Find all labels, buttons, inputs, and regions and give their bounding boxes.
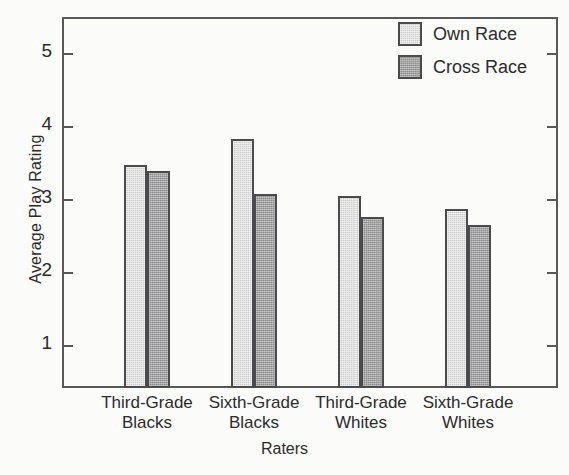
x-axis-category-line-1: Third-Grade [315, 393, 407, 412]
x-axis-category-label: Sixth-GradeWhites [400, 393, 536, 433]
y-axis-tick-mark [62, 345, 73, 347]
y-axis-tick-mark-right [547, 199, 558, 201]
y-axis-tick-mark [62, 199, 73, 201]
x-axis-category-line-1: Sixth-Grade [423, 393, 514, 412]
legend-swatch-own-race [398, 22, 422, 46]
y-axis-tick-label: 2 [12, 259, 52, 281]
bar-own-race [231, 139, 254, 388]
bar-own-race [124, 165, 147, 388]
bar-cross-race [147, 171, 170, 388]
y-axis-tick-mark [62, 272, 73, 274]
y-axis-tick-mark-right [547, 272, 558, 274]
y-axis-tick-label: 5 [12, 40, 52, 62]
legend-item: Own Race [398, 22, 527, 46]
y-axis-tick-mark-right [547, 345, 558, 347]
x-axis-category-line-2: Whites [400, 413, 536, 433]
bar-cross-race [361, 217, 384, 388]
bar-own-race [338, 196, 361, 388]
legend-label: Own Race [433, 24, 517, 45]
bar-chart-figure: Average Play Rating 12345 Own RaceCross … [0, 0, 569, 475]
bar-cross-race [254, 194, 277, 388]
y-axis-tick-mark-right [547, 53, 558, 55]
y-axis-tick-label: 3 [12, 186, 52, 208]
chart-legend: Own RaceCross Race [398, 22, 527, 88]
y-axis-tick-label: 4 [12, 113, 52, 135]
x-axis-category-line-1: Third-Grade [101, 393, 193, 412]
x-axis-title: Raters [0, 440, 569, 458]
legend-label: Cross Race [433, 57, 527, 78]
legend-swatch-cross-race [398, 55, 422, 79]
y-axis-tick-mark [62, 126, 73, 128]
bar-cross-race [468, 225, 491, 388]
y-axis-tick-mark-right [547, 126, 558, 128]
y-axis-tick-mark [62, 53, 73, 55]
bar-own-race [445, 209, 468, 388]
y-axis-tick-label: 1 [12, 332, 52, 354]
x-axis-category-line-1: Sixth-Grade [209, 393, 300, 412]
legend-item: Cross Race [398, 55, 527, 79]
